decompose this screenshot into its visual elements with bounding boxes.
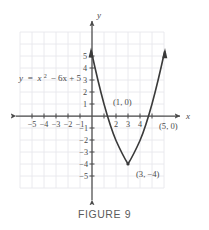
equation-exponent: 2 xyxy=(44,72,47,79)
y-tick-label: 2 xyxy=(83,88,87,97)
equation-equals: = xyxy=(28,73,33,83)
point-markers xyxy=(126,162,129,165)
equation-lhs: y xyxy=(18,73,23,83)
x-tick-label: 4 xyxy=(138,120,142,129)
x-axis-label: x xyxy=(185,111,190,121)
y-tick-label: 4 xyxy=(83,64,87,73)
curve-arrow-right xyxy=(162,48,167,58)
y-tick-label: −5 xyxy=(79,172,88,181)
annotation-root-1: (1, 0) xyxy=(113,97,132,107)
x-tick-label: −2 xyxy=(64,120,73,129)
figure-container: −5 −4 −3 −2 −1 2 3 4 5 4 3 2 1 −1 −2 −3 … xyxy=(0,0,209,230)
equation-label: y = x 2 − 6x + 5 xyxy=(18,70,82,83)
y-tick-label: −3 xyxy=(79,148,88,157)
equation-variable: x xyxy=(37,73,42,83)
parabola-plot: −5 −4 −3 −2 −1 2 3 4 5 4 3 2 1 −1 −2 −3 … xyxy=(0,0,209,230)
y-tick-label: 1 xyxy=(83,100,87,109)
x-tick-label: 2 xyxy=(114,120,118,129)
x-tick-label: −5 xyxy=(28,120,37,129)
x-tick-label: −3 xyxy=(52,120,61,129)
y-tick-label: −1 xyxy=(79,124,88,133)
vertex-marker xyxy=(126,162,129,165)
annotation-vertex: (3, −4) xyxy=(136,169,160,179)
y-axis-label: y xyxy=(96,10,101,20)
curve-arrow-left xyxy=(89,48,94,58)
y-tick-label: −2 xyxy=(79,136,88,145)
y-tick-label: 5 xyxy=(83,52,87,61)
figure-caption: FIGURE 9 xyxy=(0,208,209,220)
annotation-root-5: (5, 0) xyxy=(159,121,178,131)
x-tick-label: 3 xyxy=(126,120,130,129)
y-tick-label: −4 xyxy=(79,160,88,169)
equation-rest: − 6x + 5 xyxy=(51,73,82,83)
x-tick-label: −4 xyxy=(40,120,49,129)
y-tick-label: 3 xyxy=(83,76,87,85)
